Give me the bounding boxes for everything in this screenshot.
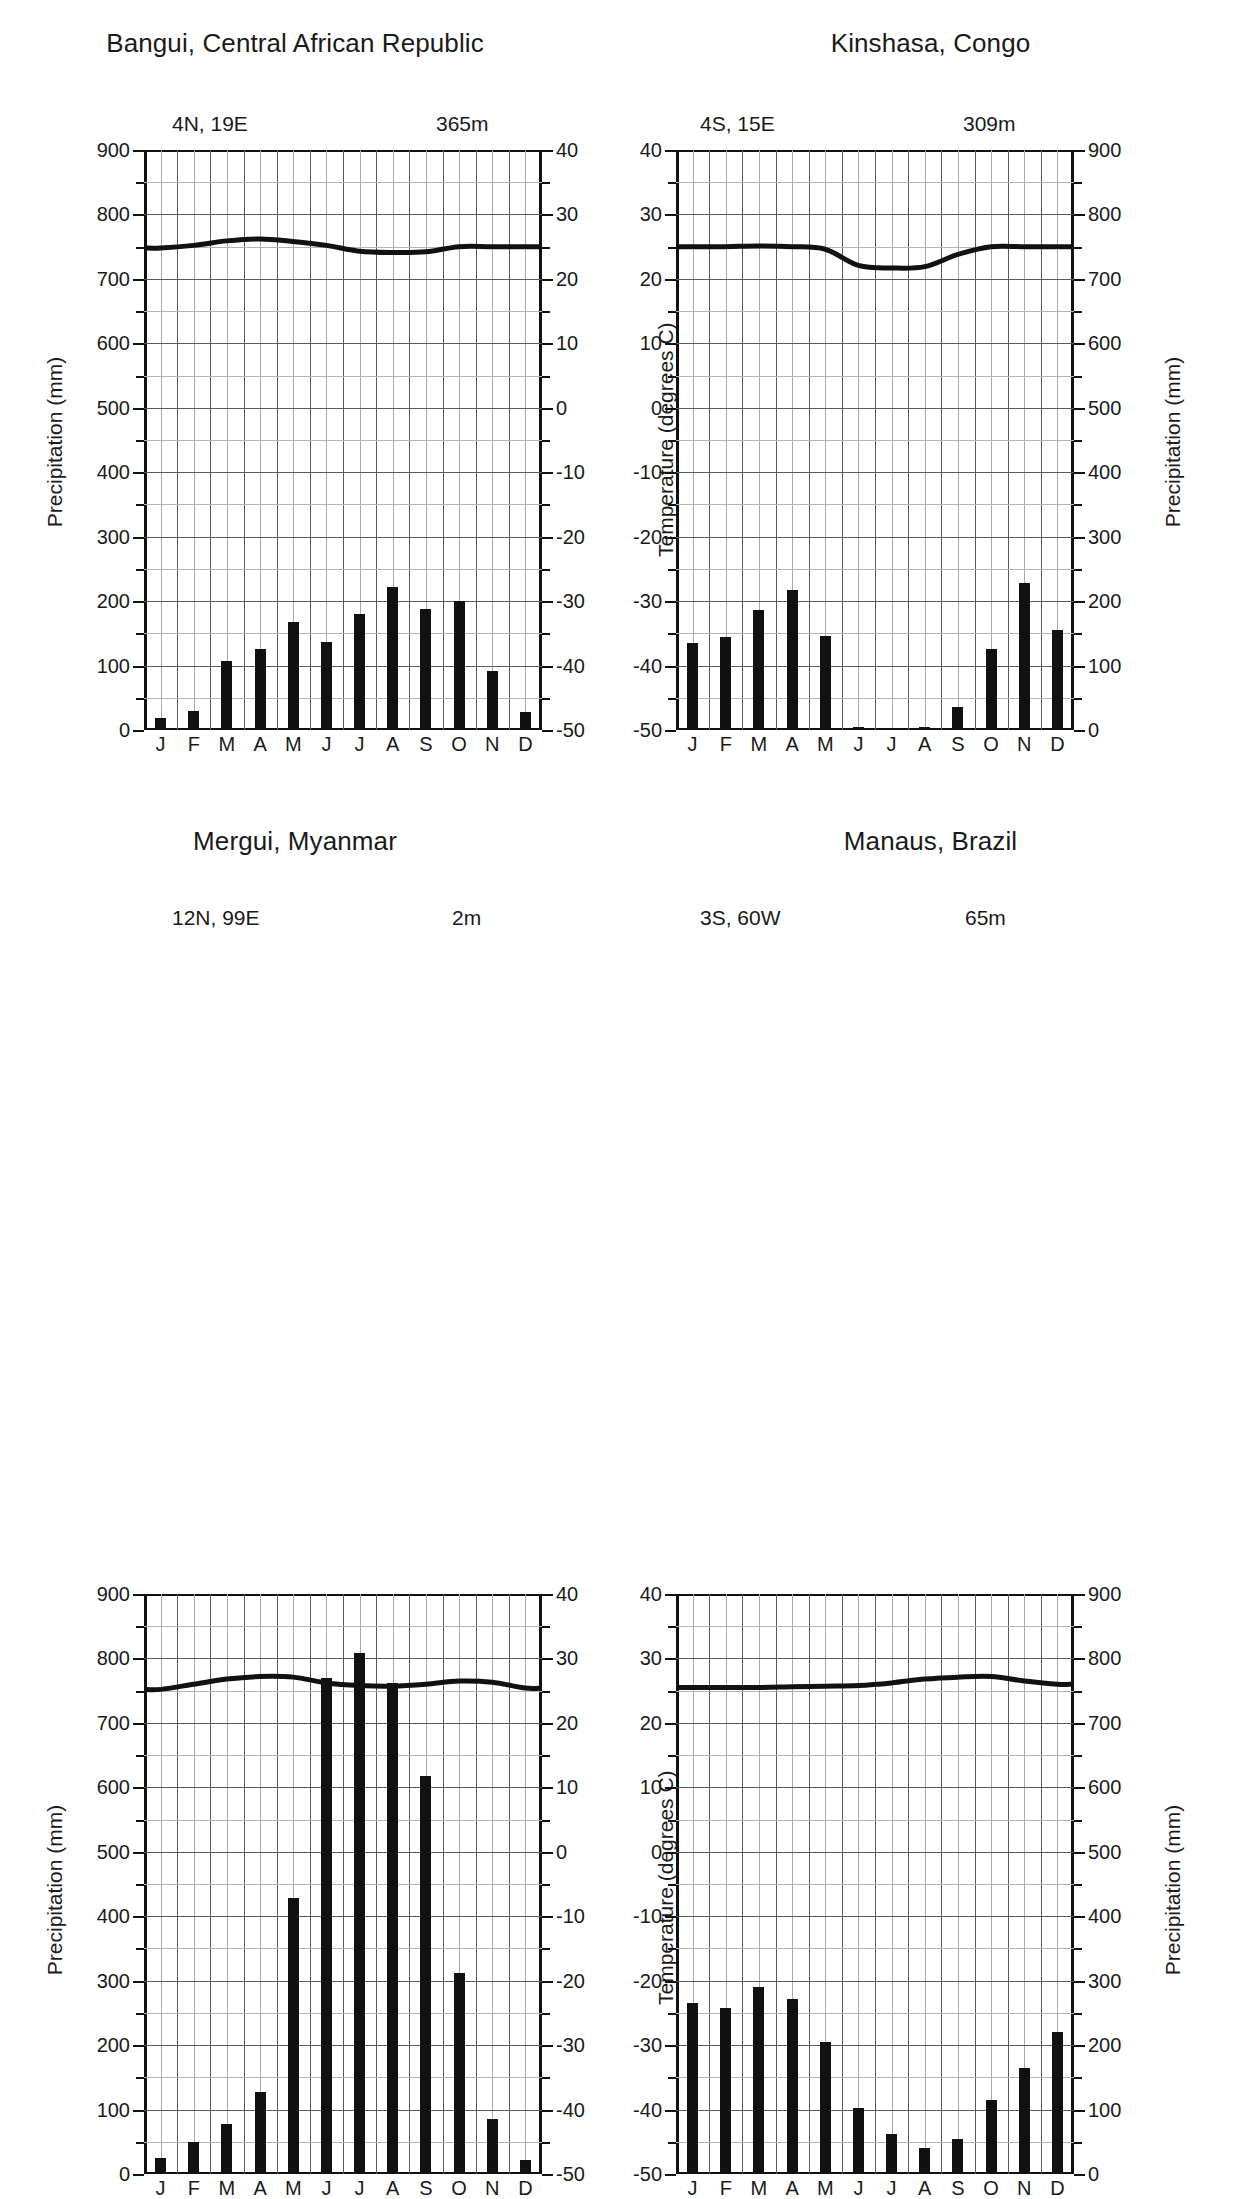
- month-label: O: [983, 733, 999, 756]
- precip-tick-label: 600: [1088, 332, 1121, 355]
- temp-tick-label: -10: [556, 1905, 585, 1928]
- right-axis-title: Precipitation (mm): [1161, 342, 1185, 542]
- precip-tick-label: 700: [97, 1711, 130, 1734]
- month-label: M: [751, 733, 768, 756]
- month-label: J: [321, 733, 331, 756]
- temp-tick-label: 20: [556, 1711, 578, 1734]
- temp-tick-label: -40: [633, 2098, 662, 2121]
- month-label: A: [253, 733, 266, 756]
- precip-tick-label: 300: [97, 525, 130, 548]
- month-label: F: [188, 2177, 200, 2199]
- temp-tick-label: 40: [640, 1583, 662, 1606]
- left-axis-title: Temperature (degrees C): [654, 327, 678, 557]
- temp-tick-label: 30: [556, 203, 578, 226]
- precip-tick-label: 200: [1088, 590, 1121, 613]
- month-label: N: [485, 733, 499, 756]
- month-label: A: [386, 733, 399, 756]
- month-label: S: [419, 733, 432, 756]
- month-label: N: [485, 2177, 499, 2199]
- temp-tick-label: 0: [556, 396, 567, 419]
- month-label: A: [918, 2177, 931, 2199]
- precip-tick-label: 800: [1088, 1647, 1121, 1670]
- temp-tick-label: 10: [556, 332, 578, 355]
- temp-tick-label: -30: [633, 2034, 662, 2057]
- month-label: M: [219, 2177, 236, 2199]
- temp-tick-label: -40: [556, 654, 585, 677]
- temp-tick-label: -10: [556, 461, 585, 484]
- month-label: M: [285, 733, 302, 756]
- temp-tick-label: 0: [651, 1840, 662, 1863]
- precip-tick-label: 0: [119, 719, 130, 742]
- month-label: O: [451, 733, 467, 756]
- temp-tick-label: -10: [633, 461, 662, 484]
- month-label: J: [156, 2177, 166, 2199]
- precip-tick-label: 600: [97, 1776, 130, 1799]
- precip-tick-label: 800: [97, 1647, 130, 1670]
- temp-tick-label: -50: [633, 719, 662, 742]
- precip-tick-label: 300: [97, 1969, 130, 1992]
- precip-tick-label: 200: [1088, 2034, 1121, 2057]
- month-label: F: [188, 733, 200, 756]
- month-label: A: [785, 2177, 798, 2199]
- panel-coordinates: 4N, 19E: [172, 112, 248, 136]
- panel-manaus: Manaus, Brazil 3S, 60W 65m Temperature (…: [618, 818, 1237, 1637]
- month-labels: JFMAMJJASOND: [144, 730, 542, 764]
- month-labels: JFMAMJJASOND: [144, 2174, 542, 2199]
- month-label: N: [1017, 733, 1031, 756]
- left-axis-title: Precipitation (mm): [43, 1790, 67, 1990]
- panel-title: Mergui, Myanmar: [0, 826, 618, 857]
- month-label: J: [887, 733, 897, 756]
- month-label: A: [785, 733, 798, 756]
- month-label: J: [688, 2177, 698, 2199]
- precip-tick-label: 200: [97, 2034, 130, 2057]
- temp-tick-label: 40: [556, 139, 578, 162]
- plot-area-mergui: 0100200300400500600700800900 -50-40-30-2…: [144, 1594, 542, 2174]
- temp-tick-label: -50: [633, 2163, 662, 2186]
- panel-elevation: 2m: [452, 906, 481, 930]
- temp-tick-label: -10: [633, 1905, 662, 1928]
- panel-elevation: 309m: [963, 112, 1016, 136]
- temp-tick-label: 20: [640, 1711, 662, 1734]
- temp-tick-label: 40: [640, 139, 662, 162]
- month-label: M: [285, 2177, 302, 2199]
- month-label: S: [419, 2177, 432, 2199]
- panel-kinshasa: Kinshasa, Congo 4S, 15E 309m Temperature…: [618, 0, 1237, 818]
- month-label: J: [355, 733, 365, 756]
- month-label: J: [321, 2177, 331, 2199]
- temp-tick-label: 40: [556, 1583, 578, 1606]
- temp-tick-label: -50: [556, 2163, 585, 2186]
- panel-coordinates: 4S, 15E: [700, 112, 775, 136]
- month-label: J: [156, 733, 166, 756]
- precip-tick-label: 400: [97, 461, 130, 484]
- precip-tick-label: 100: [1088, 654, 1121, 677]
- temp-tick-label: -20: [633, 1969, 662, 1992]
- precip-tick-label: 500: [97, 1840, 130, 1863]
- temp-tick-label: 10: [640, 1776, 662, 1799]
- precip-tick-label: 100: [97, 654, 130, 677]
- temperature-line: [676, 150, 1074, 730]
- month-label: O: [451, 2177, 467, 2199]
- precip-tick-label: 200: [97, 590, 130, 613]
- temp-tick-label: 10: [556, 1776, 578, 1799]
- panel-title: Manaus, Brazil: [624, 826, 1237, 857]
- precip-tick-label: 600: [1088, 1776, 1121, 1799]
- temp-tick-label: 0: [651, 396, 662, 419]
- month-label: M: [219, 733, 236, 756]
- month-label: D: [1050, 733, 1064, 756]
- precip-tick-label: 300: [1088, 1969, 1121, 1992]
- temp-tick-label: -20: [556, 1969, 585, 1992]
- temp-tick-label: -20: [556, 525, 585, 548]
- precip-tick-label: 900: [1088, 139, 1121, 162]
- precip-tick-label: 500: [1088, 1840, 1121, 1863]
- panel-coordinates: 12N, 99E: [172, 906, 260, 930]
- temp-tick-label: -30: [633, 590, 662, 613]
- panel-elevation: 65m: [965, 906, 1006, 930]
- month-label: M: [751, 2177, 768, 2199]
- precip-tick-label: 400: [1088, 461, 1121, 484]
- precip-tick-label: 100: [97, 2098, 130, 2121]
- precip-tick-label: 800: [97, 203, 130, 226]
- plot-area-kinshasa: -50-40-30-20-10010203040 010020030040050…: [676, 150, 1074, 730]
- precip-tick-label: 300: [1088, 525, 1121, 548]
- precip-tick-label: 700: [97, 267, 130, 290]
